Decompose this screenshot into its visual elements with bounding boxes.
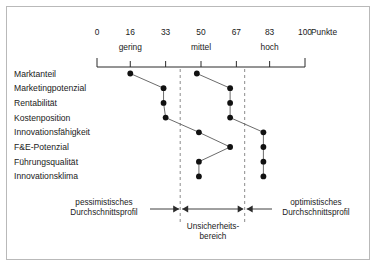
optimistic-profile-line1: optimistisches (290, 198, 341, 207)
category-label-3: Kostenposition (14, 113, 70, 122)
axis-tick-16: 16 (126, 28, 135, 36)
axis-tick-83: 83 (265, 28, 274, 36)
category-label-2: Rentabilität (14, 99, 57, 108)
pessimistic-profile-line1: pessimistisches (75, 198, 132, 207)
axis-tick-67: 67 (232, 28, 241, 36)
category-label-1: Marketingpotenzial (14, 84, 86, 93)
axis-band-hoch: hoch (261, 43, 279, 51)
axis-band-gering: gering (119, 43, 142, 51)
profile-chart-figure: 01633506783100 geringmittelhoch Punkte M… (0, 0, 376, 266)
axis-tick-0: 0 (95, 28, 100, 36)
optimistic-profile-line2: Durchschnittsprofil (282, 208, 349, 217)
axis-band-mittel: mittel (191, 43, 211, 51)
pessimistic-profile-line2: Durchschnittsprofil (70, 208, 137, 217)
axis-tick-33: 33 (161, 28, 170, 36)
category-label-6: Führungsqualität (14, 157, 78, 166)
axis-unit-label: Punkte (311, 28, 337, 36)
category-label-4: Innovationsfähigkeit (14, 128, 90, 137)
optimistic-profile-annotation: optimistisches Durchschnittsprofil (282, 198, 349, 219)
category-label-7: Innovationsklima (14, 172, 78, 181)
axis-tick-50: 50 (196, 28, 205, 36)
category-label-0: Marktanteil (14, 69, 56, 78)
axis-tick-100: 100 (298, 28, 312, 36)
uncertainty-band-line1: Unsicherheits- (187, 222, 239, 231)
category-label-5: F&E-Potenzial (14, 143, 69, 152)
uncertainty-band-line2: bereich (200, 232, 227, 241)
uncertainty-band-annotation: Unsicherheits- bereich (187, 222, 239, 243)
pessimistic-profile-annotation: pessimistisches Durchschnittsprofil (70, 198, 137, 219)
